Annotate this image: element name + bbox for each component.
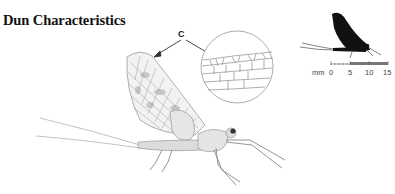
scale-unit: mm [312, 68, 325, 77]
mayfly-silhouette [332, 13, 370, 52]
magnified-wing-detail [201, 31, 273, 103]
scale-tick-15: 15 [383, 68, 391, 77]
eye [230, 128, 235, 133]
scale-bar [330, 61, 388, 65]
abdomen [138, 140, 202, 151]
mayfly-illustration [0, 0, 395, 194]
tails [36, 118, 140, 148]
scale-tick-10: 10 [365, 68, 373, 77]
thorax [198, 129, 228, 151]
scale-tick-5: 5 [348, 68, 352, 77]
scale-tick-0: 0 [329, 68, 333, 77]
